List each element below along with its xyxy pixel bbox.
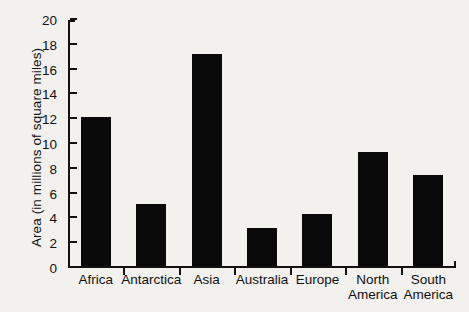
x-tick-label: SouthAmerica bbox=[404, 272, 454, 302]
y-tick-label: 14 bbox=[42, 87, 57, 102]
y-tick bbox=[70, 92, 77, 94]
x-axis-right-cap bbox=[454, 261, 456, 268]
x-tick-label: Europe bbox=[296, 272, 340, 287]
y-tick bbox=[70, 192, 77, 194]
y-tick-label: 10 bbox=[42, 137, 57, 152]
y-tick bbox=[70, 167, 77, 169]
x-tick-label-line: Australia bbox=[236, 272, 289, 287]
bar bbox=[358, 152, 388, 266]
y-tick bbox=[70, 43, 77, 45]
x-tick-label: Antarctica bbox=[121, 272, 181, 287]
x-tick-label-line: Antarctica bbox=[121, 272, 181, 287]
bar bbox=[302, 214, 332, 266]
x-axis-category-labels: AfricaAntarcticaAsiaAustraliaEuropeNorth… bbox=[68, 272, 456, 312]
y-tick bbox=[70, 117, 77, 119]
x-axis-line bbox=[68, 266, 456, 268]
x-tick-label-line: America bbox=[404, 287, 454, 302]
y-tick bbox=[70, 241, 77, 243]
bar bbox=[136, 204, 166, 266]
y-tick bbox=[70, 142, 77, 144]
x-tick-label-line: Asia bbox=[193, 272, 219, 287]
x-tick-label-line: America bbox=[348, 287, 398, 302]
x-tick-label-line: North bbox=[348, 272, 398, 287]
y-tick bbox=[70, 266, 77, 268]
y-tick-label: 16 bbox=[42, 62, 57, 77]
y-tick-label: 2 bbox=[49, 236, 57, 251]
y-axis-tick-labels: 02468101214161820 bbox=[0, 20, 62, 268]
x-tick-label-line: Europe bbox=[296, 272, 340, 287]
bar bbox=[81, 117, 111, 266]
y-tick-label: 4 bbox=[49, 211, 57, 226]
x-tick-label: Australia bbox=[236, 272, 289, 287]
y-axis-line bbox=[68, 20, 70, 268]
y-tick-label: 6 bbox=[49, 186, 57, 201]
y-tick-label: 20 bbox=[42, 13, 57, 28]
y-tick bbox=[70, 18, 77, 20]
x-tick-label-line: South bbox=[404, 272, 454, 287]
x-tick-label-line: Africa bbox=[78, 272, 113, 287]
bar bbox=[413, 175, 443, 266]
x-tick-label: NorthAmerica bbox=[348, 272, 398, 302]
bar-chart: Area (in millions of square miles) 02468… bbox=[0, 0, 469, 312]
y-tick-label: 8 bbox=[49, 161, 57, 176]
x-tick-label: Asia bbox=[193, 272, 219, 287]
plot-area bbox=[68, 20, 456, 268]
x-tick-label: Africa bbox=[78, 272, 113, 287]
y-tick bbox=[70, 216, 77, 218]
y-axis-top-cap bbox=[68, 20, 75, 22]
y-tick-label: 0 bbox=[49, 261, 57, 276]
y-tick-label: 18 bbox=[42, 37, 57, 52]
y-tick bbox=[70, 68, 77, 70]
bar bbox=[192, 54, 222, 266]
y-tick-label: 12 bbox=[42, 112, 57, 127]
bar bbox=[247, 228, 277, 266]
